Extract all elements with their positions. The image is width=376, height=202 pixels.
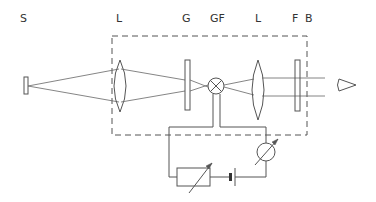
light-rays-parallel-output xyxy=(262,78,325,96)
enclosure-dashed-box xyxy=(112,36,307,135)
label-lamp: GF xyxy=(210,12,225,25)
ammeter-icon xyxy=(255,139,278,165)
lamp-icon xyxy=(208,78,224,94)
label-lens-1: L xyxy=(116,12,123,25)
label-observer: B xyxy=(305,12,313,25)
lens-1-icon xyxy=(114,60,126,112)
label-lens-2: L xyxy=(255,12,262,25)
light-rays-lens-to-grating xyxy=(121,69,185,102)
light-rays-grating-to-lamp xyxy=(190,80,208,91)
label-grating: G xyxy=(182,12,191,25)
eye-icon xyxy=(338,79,357,91)
light-rays-lamp-to-lens xyxy=(224,79,254,95)
source-icon xyxy=(24,77,28,94)
variable-resistor-icon xyxy=(177,163,229,193)
label-source: S xyxy=(20,12,27,25)
grating-icon xyxy=(185,60,190,110)
light-rays-source-to-lens xyxy=(28,69,119,102)
optical-diagram: S L G GF L F B xyxy=(0,0,376,202)
filter-icon xyxy=(295,60,300,111)
lens-2-icon xyxy=(252,60,264,120)
label-filter: F xyxy=(292,12,298,25)
battery-icon xyxy=(229,161,266,186)
